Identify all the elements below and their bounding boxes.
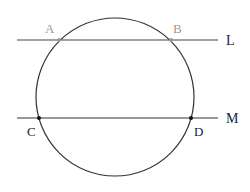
point-c bbox=[37, 116, 41, 120]
point-d bbox=[189, 116, 193, 120]
label-m: M bbox=[226, 112, 238, 126]
diagram-svg bbox=[0, 0, 250, 192]
diagram-canvas: A B L C D M bbox=[0, 0, 250, 192]
label-b: B bbox=[173, 22, 182, 35]
point-a bbox=[57, 38, 61, 42]
label-a: A bbox=[45, 22, 54, 35]
point-b bbox=[169, 38, 173, 42]
label-c: C bbox=[27, 125, 36, 138]
label-l: L bbox=[226, 34, 235, 48]
label-d: D bbox=[194, 125, 203, 138]
